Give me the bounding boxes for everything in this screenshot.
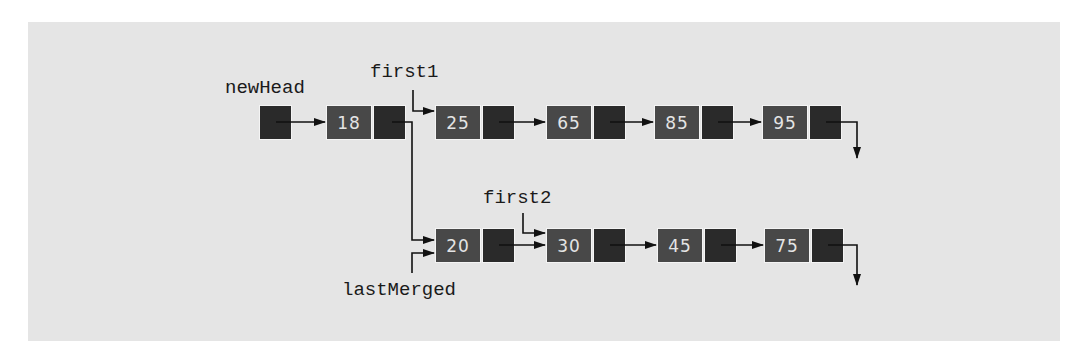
- arrow-first2-to-30: [523, 213, 545, 233]
- arrow-lastmerged-to-20: [412, 253, 434, 273]
- arrow-first1-to-25: [413, 90, 434, 111]
- arrow-75-to-null: [828, 245, 857, 285]
- arrow-18-to-20: [392, 122, 434, 240]
- arrow-95-to-null: [826, 122, 857, 158]
- arrows-layer: [0, 0, 1079, 361]
